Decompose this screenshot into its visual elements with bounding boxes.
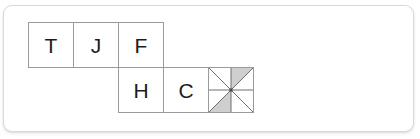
tile-letter: C (178, 80, 193, 101)
tile-f[interactable]: F (118, 22, 164, 68)
letter-tile-board: T J F H C (4, 6, 415, 133)
tile-h[interactable]: H (118, 67, 164, 113)
app-root: T J F H C (0, 0, 420, 139)
tile-letter: H (133, 80, 148, 101)
pinwheel-icon (209, 68, 253, 112)
tile-letter: J (91, 35, 102, 56)
tile-letter: F (135, 35, 148, 56)
tile-letter: T (45, 35, 58, 56)
panel-container: T J F H C (3, 5, 414, 132)
tile-t[interactable]: T (28, 22, 74, 68)
tile-c[interactable]: C (163, 67, 209, 113)
tile-j[interactable]: J (73, 22, 119, 68)
tile-pinwheel[interactable] (208, 67, 254, 113)
pinwheel-center-hub (230, 89, 233, 92)
